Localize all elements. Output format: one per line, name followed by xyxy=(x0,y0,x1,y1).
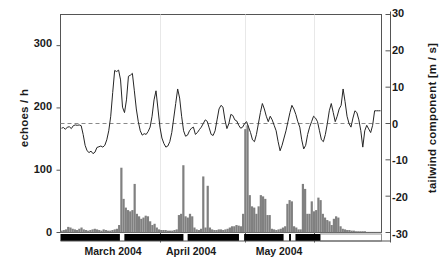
bar xyxy=(337,218,339,233)
bar xyxy=(196,229,198,232)
bar xyxy=(147,216,149,232)
bar xyxy=(364,231,366,232)
bar xyxy=(200,229,202,233)
bar xyxy=(229,228,231,233)
bar xyxy=(331,225,333,232)
bar xyxy=(111,230,113,232)
bar xyxy=(246,125,248,232)
observation-band-gap-1 xyxy=(183,234,187,241)
tailwind-line xyxy=(61,70,380,154)
bar xyxy=(342,229,344,233)
bar xyxy=(131,210,133,232)
bar xyxy=(264,199,266,233)
bar xyxy=(178,215,180,232)
bar xyxy=(289,200,291,232)
bar xyxy=(120,168,122,233)
plot-canvas xyxy=(0,0,443,272)
bar xyxy=(109,231,111,233)
observation-band-gap-2 xyxy=(239,234,244,241)
bar xyxy=(211,229,213,232)
bar xyxy=(149,221,151,232)
observation-band-gap-4 xyxy=(291,234,295,241)
bar xyxy=(218,229,220,232)
bar xyxy=(215,230,217,232)
bar xyxy=(107,231,109,233)
bar xyxy=(362,231,364,232)
bar-series xyxy=(61,125,382,232)
bar xyxy=(304,189,306,233)
bar xyxy=(253,208,255,233)
bar xyxy=(373,232,375,233)
bar xyxy=(320,200,322,232)
bar xyxy=(249,195,251,232)
bar xyxy=(366,232,368,233)
bar xyxy=(213,230,215,232)
observation-band xyxy=(61,234,321,241)
bar xyxy=(173,230,175,232)
bar xyxy=(313,211,315,232)
bar xyxy=(98,230,100,232)
bar xyxy=(258,206,260,232)
bar xyxy=(308,214,310,233)
bar xyxy=(165,230,167,232)
bar xyxy=(317,198,319,233)
bar xyxy=(100,231,102,233)
bar xyxy=(127,210,129,232)
bar xyxy=(198,230,200,232)
bar xyxy=(231,226,233,232)
bar xyxy=(184,216,186,232)
bar xyxy=(251,206,253,232)
bar xyxy=(359,231,361,232)
bar xyxy=(224,229,226,232)
bar xyxy=(207,186,209,233)
bar xyxy=(295,228,297,233)
bar xyxy=(335,216,337,232)
bar xyxy=(238,226,240,233)
bar xyxy=(277,229,279,232)
bar xyxy=(353,231,355,233)
bar xyxy=(156,228,158,233)
observation-band-gap-3 xyxy=(284,234,289,241)
bar xyxy=(300,229,302,232)
bar xyxy=(280,229,282,233)
bar xyxy=(189,214,191,233)
bar xyxy=(348,230,350,232)
bar xyxy=(69,228,71,233)
bar xyxy=(357,231,359,232)
bar xyxy=(125,208,127,233)
bar xyxy=(326,220,328,232)
bar xyxy=(72,229,74,233)
bar xyxy=(87,231,89,233)
bar xyxy=(167,231,169,233)
bar xyxy=(306,214,308,233)
bar xyxy=(187,218,189,233)
bar xyxy=(220,229,222,232)
bar xyxy=(63,230,65,232)
bar xyxy=(286,204,288,233)
bar xyxy=(85,230,87,232)
bar xyxy=(76,230,78,232)
bar xyxy=(370,232,372,233)
bar xyxy=(61,231,63,233)
bar xyxy=(368,232,370,233)
bar xyxy=(315,210,317,232)
bar xyxy=(116,229,118,233)
bar xyxy=(103,229,105,232)
bar xyxy=(118,225,120,232)
observation-band-empty xyxy=(321,234,382,241)
bar xyxy=(134,184,136,233)
bar xyxy=(262,196,264,232)
bar xyxy=(291,201,293,232)
bar xyxy=(193,228,195,233)
bar xyxy=(65,229,67,232)
bar xyxy=(89,230,91,232)
observation-band-gap-0 xyxy=(120,234,124,241)
bar xyxy=(176,229,178,232)
bar xyxy=(67,227,69,233)
bar xyxy=(344,229,346,232)
bar xyxy=(275,230,277,232)
bar xyxy=(94,229,96,233)
bar xyxy=(311,201,313,232)
bar xyxy=(282,228,284,233)
bar xyxy=(136,214,138,233)
